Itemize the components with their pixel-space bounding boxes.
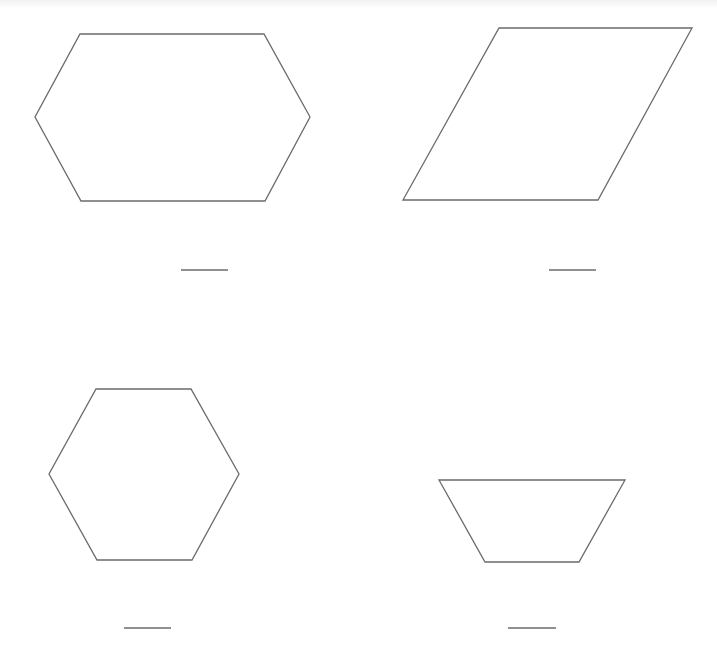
- shape-group-2: [403, 28, 692, 270]
- elongated-hexagon-shape: [35, 34, 310, 201]
- worksheet-canvas: [0, 0, 717, 668]
- shape-group-4: [439, 480, 625, 628]
- shape-group-1: [35, 34, 310, 270]
- shape-group-3: [49, 389, 239, 628]
- trapezoid-shape: [439, 480, 625, 562]
- parallelogram-shape: [403, 28, 692, 200]
- regular-hexagon-shape: [49, 389, 239, 560]
